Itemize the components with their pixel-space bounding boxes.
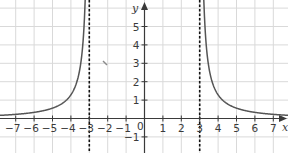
x-tick-label: 3 (196, 122, 203, 134)
y-axis-arrow-icon (141, 2, 148, 10)
x-axis-label: x (282, 121, 288, 134)
x-tick-label: 5 (233, 122, 240, 134)
x-tick-label: 7 (270, 122, 277, 134)
y-axis-label: y (131, 2, 139, 15)
curve-left-branch (0, 0, 89, 115)
x-tick-label: −3 (79, 122, 94, 134)
curve-right-branch (200, 0, 288, 115)
x-tick-label: −6 (23, 122, 39, 134)
x-tick-label: −4 (60, 122, 76, 134)
y-tick-label: 5 (133, 21, 140, 33)
origin-label: 0 (137, 120, 144, 132)
graph: −7−6−5−4−3−2−11234567−112345 x y 0 (0, 0, 288, 153)
x-tick-label: −7 (5, 122, 20, 134)
x-tick-label: 2 (178, 122, 185, 134)
x-tick-label: 1 (160, 122, 167, 134)
x-tick-label: 6 (252, 122, 259, 134)
y-tick-label: −1 (124, 131, 139, 143)
y-tick-label: 1 (133, 94, 140, 106)
x-tick-label: −2 (97, 122, 112, 134)
x-tick-label: −5 (42, 122, 57, 134)
y-tick-label: 3 (133, 57, 140, 69)
y-tick-label: 4 (133, 39, 140, 51)
x-tick-label: 4 (215, 122, 222, 134)
y-tick-label: 2 (133, 76, 140, 88)
